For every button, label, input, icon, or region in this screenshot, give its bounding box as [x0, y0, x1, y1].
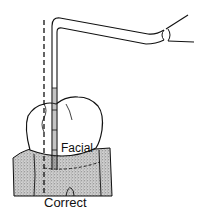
probe-placement-diagram — [0, 0, 203, 219]
probe-tip — [52, 88, 57, 170]
probe-handle — [166, 15, 188, 29]
probe-collar — [162, 29, 170, 41]
correct-caption: Correct — [44, 196, 87, 209]
probe-handle — [168, 41, 194, 42]
facial-label: Facial — [61, 142, 93, 154]
